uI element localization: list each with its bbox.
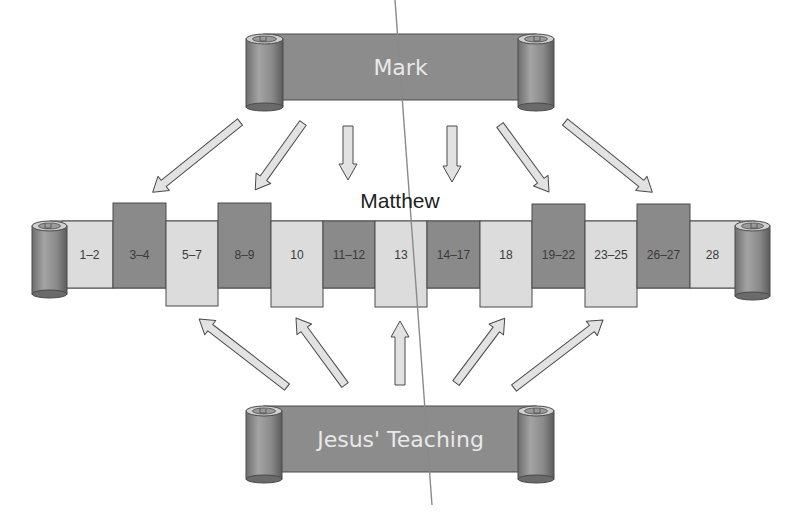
section-8-9 bbox=[218, 203, 271, 288]
arrow-icon bbox=[559, 115, 658, 199]
scroll-roll-right-icon bbox=[518, 406, 554, 483]
section-14-17 bbox=[427, 221, 480, 288]
section-13 bbox=[375, 221, 427, 307]
arrow-icon bbox=[493, 120, 557, 198]
arrow-icon bbox=[289, 313, 353, 391]
section-23-25 bbox=[585, 221, 637, 307]
section-10 bbox=[271, 221, 323, 307]
arrow-icon bbox=[248, 118, 310, 195]
arrow-icon bbox=[147, 115, 246, 199]
scroll-roll-right-icon bbox=[735, 221, 770, 300]
section-19-22 bbox=[532, 204, 585, 288]
section-3-4 bbox=[113, 203, 166, 288]
arrow-icon bbox=[339, 126, 357, 180]
section-28 bbox=[690, 221, 740, 288]
synoptic-diagram bbox=[0, 0, 798, 519]
scroll-roll-left-icon bbox=[246, 34, 283, 111]
matthew-scroll bbox=[32, 203, 770, 307]
section-1-2 bbox=[62, 221, 113, 288]
section-11-12 bbox=[323, 221, 375, 288]
matthew-label: Matthew bbox=[345, 186, 455, 216]
arrow-icon bbox=[509, 313, 609, 395]
scroll-roll-left-icon bbox=[246, 406, 282, 483]
section-26-27 bbox=[637, 204, 690, 288]
scroll-roll-left-icon bbox=[32, 221, 67, 298]
section-5-7 bbox=[166, 221, 218, 306]
scroll-roll-right-icon bbox=[518, 34, 554, 111]
arrow-icon bbox=[391, 321, 409, 385]
section-18 bbox=[480, 221, 532, 307]
arrow-icon bbox=[194, 312, 293, 394]
arrow-icon bbox=[443, 126, 461, 182]
arrows-from-jesus-teaching bbox=[194, 312, 609, 395]
arrow-icon bbox=[449, 313, 512, 389]
jesus-teaching-scroll bbox=[246, 406, 554, 483]
jesus-teaching-banner bbox=[264, 406, 536, 472]
